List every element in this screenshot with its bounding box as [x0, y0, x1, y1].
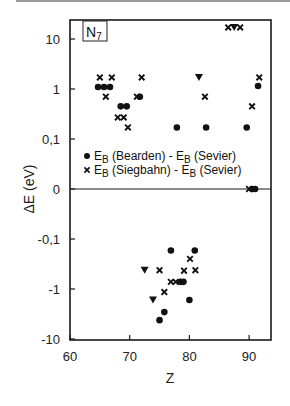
marker-circle [243, 124, 250, 131]
y-tick-label: -1 [48, 282, 60, 297]
y-tick-label: -10 [41, 332, 60, 347]
panel-label-box: N7 [83, 21, 107, 42]
legend: EB (Bearden) - EB (Sevier)EB (Siegbahn) … [84, 149, 241, 179]
marker-circle [161, 309, 168, 316]
marker-circle [95, 84, 102, 91]
marker-x [237, 25, 243, 31]
marker-circle [174, 124, 181, 131]
x-tick-label: 90 [242, 349, 256, 364]
legend-circle-icon [84, 153, 90, 159]
marker-x [249, 104, 255, 110]
marker-circle [168, 247, 175, 254]
y-tick-label: 10 [46, 32, 60, 47]
marker-triangle-down [195, 74, 203, 81]
marker-x [187, 256, 193, 262]
y-tick-label: 1 [53, 82, 60, 97]
y-tick-label: 0 [53, 182, 60, 197]
marker-x [256, 75, 262, 81]
marker-circle [156, 317, 163, 324]
marker-x [181, 268, 187, 274]
marker-circle [252, 186, 259, 193]
marker-x [139, 75, 145, 81]
marker-circle [180, 279, 187, 286]
marker-circle [191, 247, 198, 254]
legend-x-icon [84, 167, 89, 172]
marker-x [109, 75, 115, 81]
y-tick-label: 0,1 [42, 132, 60, 147]
plot-frame [70, 20, 271, 340]
x-tick-label: 70 [122, 349, 136, 364]
marker-x [162, 289, 168, 295]
marker-x [225, 25, 231, 31]
marker-x [97, 75, 103, 81]
marker-x [202, 94, 208, 100]
x-tick-label: 80 [182, 349, 196, 364]
marker-circle [117, 103, 124, 110]
marker-triangle-down [230, 24, 238, 31]
marker-circle [107, 84, 114, 91]
marker-circle [203, 124, 210, 131]
marker-circle [101, 84, 108, 91]
marker-circle [123, 103, 130, 110]
marker-x [157, 267, 163, 273]
marker-circle [186, 297, 193, 304]
marker-x [103, 94, 109, 100]
marker-x [115, 115, 121, 121]
x-axis-title: Z [166, 370, 175, 386]
legend-label: EB (Siegbahn) - EB (Sevier) [94, 163, 241, 179]
marker-x [121, 115, 127, 121]
x-tick-label: 60 [63, 349, 77, 364]
marker-circle [255, 83, 262, 90]
marker-x [193, 267, 199, 273]
y-tick-label: -0,1 [38, 232, 60, 247]
marker-triangle-down [141, 267, 149, 274]
y-axis-title: ΔE (eV) [21, 164, 37, 213]
marker-x [125, 125, 131, 131]
marker-triangle-down [149, 297, 157, 304]
scatter-chart: 607080901010,10-0,1-1-10 N7 EB (Bearden)… [0, 0, 290, 406]
